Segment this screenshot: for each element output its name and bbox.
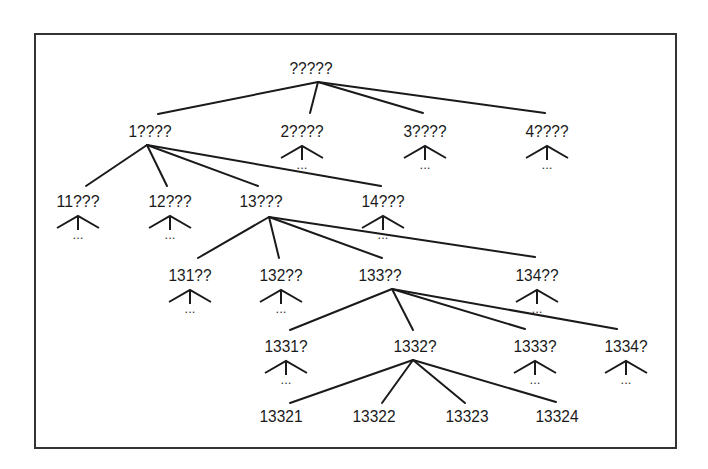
edge-root-n3 [318,82,423,113]
tree-node-n134: 134?? [516,266,559,285]
ellipsis-text: ... [378,227,389,242]
tree-node-n11: 11??? [57,192,100,211]
tree-node-n1333: 1333? [514,337,557,356]
tree-node-n12: 12??? [149,192,192,211]
tree-diagram: .................................... ???… [0,0,708,469]
collapsed-subtree-icon: ... [362,216,404,242]
edge-root-n2 [310,82,318,113]
collapsed-subtree-icon: ... [169,290,211,316]
tree-node-n13324: 13324 [536,407,579,426]
edge-root-n1 [158,82,318,114]
ellipsis-text: ... [420,157,431,172]
collapsed-subtree-icon: ... [605,361,647,387]
tree-node-n13323: 13323 [446,407,489,426]
tree-node-labels: ?????1????2????3????4????11???12???13???… [57,59,648,426]
ellipsis-text: ... [621,372,632,387]
tree-node-n2: 2???? [281,122,324,141]
ellipsis-text: ... [281,372,292,387]
tree-node-n13: 13??? [240,192,283,211]
collapsed-subtree-icon: ... [526,146,568,172]
collapsed-subtree-markers: .................................... [57,146,647,387]
tree-node-n132: 132?? [260,266,303,285]
ellipsis-text: ... [276,301,287,316]
edge-n13-n131 [198,217,269,258]
tree-node-n131: 131?? [169,266,212,285]
edge-n1-n11 [86,145,147,186]
collapsed-subtree-icon: ... [57,216,99,242]
edge-n13-n133 [269,217,382,258]
tree-node-n1331: 1331? [265,337,308,356]
ellipsis-text: ... [185,301,196,316]
ellipsis-text: ... [297,157,308,172]
collapsed-subtree-icon: ... [149,216,191,242]
collapsed-subtree-icon: ... [265,361,307,387]
collapsed-subtree-icon: ... [514,361,556,387]
edge-n1332-n13321 [290,360,413,403]
ellipsis-text: ... [532,301,543,316]
tree-node-n13322: 13322 [353,407,396,426]
edge-n1332-n13323 [413,360,465,403]
tree-node-n1332: 1332? [394,337,437,356]
ellipsis-text: ... [542,157,553,172]
tree-node-root: ????? [290,59,333,78]
collapsed-subtree-icon: ... [404,146,446,172]
edge-n13-n134 [269,217,535,257]
tree-node-n3: 3???? [404,122,447,141]
edge-n1-n14 [147,145,381,186]
ellipsis-text: ... [530,372,541,387]
edge-root-n4 [318,82,545,113]
collapsed-subtree-icon: ... [260,290,302,316]
ellipsis-text: ... [165,227,176,242]
tree-node-n1: 1???? [129,122,172,141]
ellipsis-text: ... [73,227,84,242]
tree-node-n4: 4???? [526,122,569,141]
collapsed-subtree-icon: ... [281,146,323,172]
tree-node-n14: 14??? [362,192,405,211]
edge-n133-n1331 [290,289,392,330]
edge-n13-n132 [269,217,279,258]
tree-node-n13321: 13321 [260,407,303,426]
tree-node-n133: 133?? [359,266,402,285]
tree-node-n1334: 1334? [605,337,648,356]
